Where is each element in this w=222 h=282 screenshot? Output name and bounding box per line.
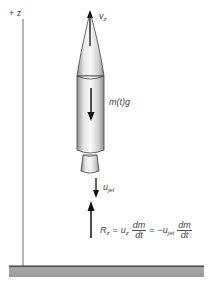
reaction-force-arrow (88, 201, 95, 238)
jet-subscript: jet (108, 187, 114, 193)
fraction-1: dm dt (132, 221, 147, 240)
jet-velocity-label: ujet (103, 183, 114, 193)
velocity-label: vz (99, 12, 107, 22)
equals-sign-2: = (149, 226, 154, 235)
term1-subscript: z (126, 230, 129, 236)
term2-subscript: jet (168, 230, 174, 236)
weight-label: m(t)g (109, 98, 130, 107)
fraction-2-denominator: dt (177, 231, 192, 240)
ground (9, 266, 204, 277)
reaction-subscript: z (107, 230, 110, 236)
jet-velocity-arrow (93, 178, 99, 198)
z-axis-label: + z (9, 9, 21, 18)
velocity-subscript: z (104, 16, 107, 22)
fraction-1-denominator: dt (132, 231, 147, 240)
fraction-2: dm dt (177, 221, 192, 240)
equals-sign-1: = (113, 226, 118, 235)
reaction-equation: Rz = uz dm dt = −ujet dm dt (100, 221, 192, 240)
